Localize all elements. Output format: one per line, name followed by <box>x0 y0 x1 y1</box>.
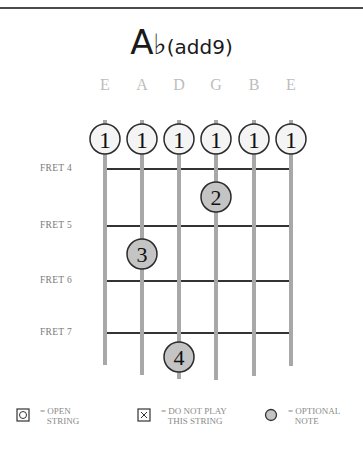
optional-note-icon <box>264 408 278 422</box>
barre-finger-label: 1 <box>285 127 297 153</box>
legend-open-line2: STRING <box>47 416 80 426</box>
fretboard-diagram: 111111234 <box>0 0 363 451</box>
legend-open-line1: = OPEN <box>40 406 71 416</box>
barre-finger-label: 1 <box>173 127 185 153</box>
barre-finger-label: 1 <box>99 127 111 153</box>
open-string-icon <box>16 408 30 422</box>
finger-label-3: 3 <box>137 242 148 267</box>
finger-label-4: 4 <box>174 345 185 370</box>
finger-label-2: 2 <box>211 185 222 210</box>
mute-string-icon <box>137 408 151 422</box>
legend-optional-line1: = OPTIONAL <box>288 406 340 416</box>
barre-finger-label: 1 <box>248 127 260 153</box>
barre-finger-label: 1 <box>210 127 222 153</box>
barre-finger-label: 1 <box>136 127 148 153</box>
legend-mute-line1: = DO NOT PLAY <box>161 406 227 416</box>
legend-optional-line2: NOTE <box>295 416 319 426</box>
legend-mute-line2: THIS STRING <box>168 416 223 426</box>
